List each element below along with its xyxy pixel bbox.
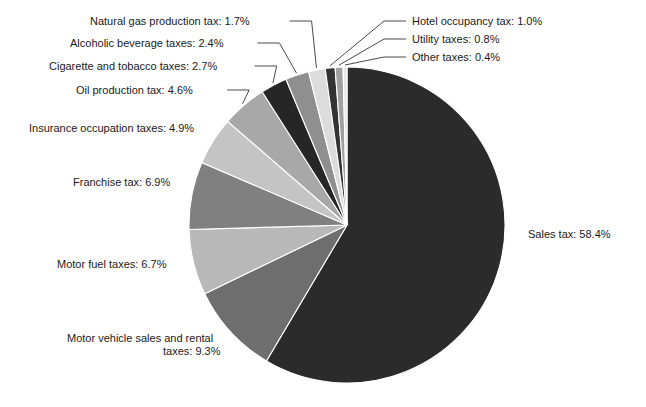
pie-slice-label: Franchise tax: 6.9% — [73, 176, 170, 188]
pie-slice-label: Cigarette and tobacco taxes: 2.7% — [49, 60, 217, 72]
pie-chart-figure: Sales tax: 58.4%Motor vehicle sales and … — [0, 0, 646, 407]
pie-slice-label: Alcoholic beverage taxes: 2.4% — [70, 37, 224, 49]
pie-chart-canvas: Sales tax: 58.4%Motor vehicle sales and … — [0, 0, 646, 407]
pie-slice-label: Insurance occupation taxes: 4.9% — [29, 122, 194, 134]
pie-slice-label: Hotel occupancy tax: 1.0% — [412, 15, 542, 27]
pie-slice-label-line: taxes: 9.3% — [163, 345, 221, 357]
pie-slice-label-line: Motor vehicle sales and rental — [67, 332, 213, 344]
pie-slice-label: Other taxes: 0.4% — [412, 51, 500, 63]
pie-slice-label: Motor fuel taxes: 6.7% — [57, 258, 167, 270]
pie-slice-label: Oil production tax: 4.6% — [76, 84, 193, 96]
pie-slice-label: Utility taxes: 0.8% — [412, 33, 500, 45]
pie-slice-label: Sales tax: 58.4% — [528, 228, 611, 240]
pie-slices-group — [189, 67, 505, 383]
pie-slice-label: Natural gas production tax: 1.7% — [90, 15, 250, 27]
